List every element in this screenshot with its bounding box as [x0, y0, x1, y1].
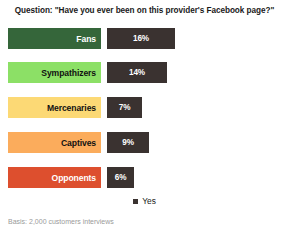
chart-row: Sympathizers 14% — [0, 62, 289, 83]
legend-label-yes: Yes — [142, 196, 156, 206]
value-label: 9% — [122, 138, 134, 147]
chart-container: Question: "Have you ever been on this pr… — [0, 0, 289, 227]
chart-legend: Yes — [0, 196, 289, 206]
chart-row: Opponents 6% — [0, 167, 289, 188]
chart-footnote: Basis: 2,000 customers interviews — [8, 218, 208, 227]
category-label: Opponents — [52, 173, 96, 183]
value-label: 6% — [115, 173, 127, 182]
chart-row: Fans 16% — [0, 28, 289, 49]
chart-plot-area: Fans 16% Sympathizers 14% Mercenaries 7% — [0, 26, 289, 194]
value-label: 14% — [129, 68, 145, 77]
chart-row: Captives 9% — [0, 132, 289, 153]
category-label: Sympathizers — [41, 68, 96, 78]
category-label: Fans — [76, 34, 96, 44]
category-bar-sympathizers[interactable]: Sympathizers — [8, 62, 101, 83]
category-bar-captives[interactable]: Captives — [8, 132, 101, 153]
category-bar-mercenaries[interactable]: Mercenaries — [8, 97, 101, 118]
value-bar-sympathizers[interactable]: 14% — [107, 62, 167, 83]
value-label: 16% — [133, 34, 149, 43]
legend-swatch-yes — [133, 199, 138, 204]
value-bar-fans[interactable]: 16% — [107, 28, 175, 49]
value-bar-opponents[interactable]: 6% — [107, 167, 134, 188]
value-bar-mercenaries[interactable]: 7% — [107, 97, 142, 118]
category-label: Mercenaries — [47, 103, 96, 113]
value-bar-captives[interactable]: 9% — [107, 132, 149, 153]
category-bar-opponents[interactable]: Opponents — [8, 167, 101, 188]
category-bar-fans[interactable]: Fans — [8, 28, 101, 49]
chart-title: Question: "Have you ever been on this pr… — [0, 6, 289, 15]
value-label: 7% — [119, 103, 131, 112]
category-label: Captives — [61, 138, 96, 148]
chart-row: Mercenaries 7% — [0, 97, 289, 118]
